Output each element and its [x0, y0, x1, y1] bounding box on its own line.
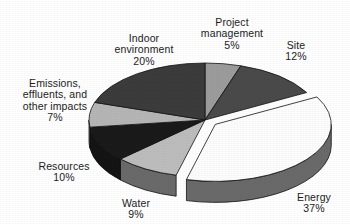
slice-label-water-text: Water	[122, 197, 150, 209]
slice-label-resources: Resources 10%	[20, 149, 108, 195]
slice-label-emissions: Emissions, effluents, and other impacts …	[6, 66, 104, 136]
slice-label-indoor-environment-text: Indoor environment	[115, 32, 174, 56]
slice-label-energy: Energy 37%	[283, 180, 345, 224]
slice-label-site: Site 12%	[268, 28, 324, 74]
pie-chart: Project management 5% Site 12% Indoor en…	[0, 0, 350, 224]
slice-value-indoor-environment: 20%	[96, 56, 192, 68]
slice-label-project-management: Project management 5%	[186, 5, 278, 63]
slice-label-resources-text: Resources	[38, 160, 89, 172]
slice-label-site-text: Site	[287, 39, 306, 51]
slice-value-emissions: 7%	[6, 112, 104, 124]
slice-label-emissions-text: Emissions, effluents, and other impacts	[23, 77, 87, 112]
slice-label-indoor-environment: Indoor environment 20%	[96, 21, 192, 79]
slice-value-resources: 10%	[20, 172, 108, 184]
slice-label-water: Water 9%	[106, 186, 166, 224]
slice-value-water: 9%	[106, 209, 166, 221]
slice-value-energy: 37%	[283, 203, 345, 215]
slice-label-project-management-text: Project management	[201, 16, 263, 40]
slice-value-project-management: 5%	[186, 40, 278, 52]
slice-label-energy-text: Energy	[297, 191, 331, 203]
slice-value-site: 12%	[268, 51, 324, 63]
